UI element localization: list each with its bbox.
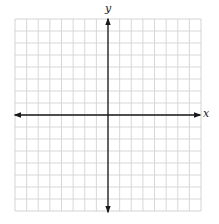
- coordinate-plane: [0, 0, 219, 224]
- y-axis-label: y: [105, 3, 111, 14]
- x-axis-label: x: [203, 108, 209, 119]
